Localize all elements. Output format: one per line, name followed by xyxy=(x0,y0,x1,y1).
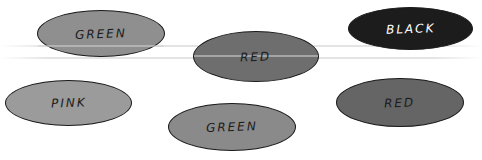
ellipse-label: GREEN xyxy=(75,26,127,42)
ellipse-label: RED xyxy=(240,49,272,64)
ellipse-red-top-center: RED xyxy=(193,31,319,82)
ellipse-green-top-left: GREEN xyxy=(37,10,165,57)
ellipse-red-bottom-right: RED xyxy=(336,78,464,127)
ellipse-label: RED xyxy=(384,95,416,110)
ellipse-label: PINK xyxy=(50,95,86,110)
ellipse-black-top-right: BLACK xyxy=(348,7,473,50)
ellipse-label: BLACK xyxy=(386,21,436,37)
ellipse-green-bottom-center: GREEN xyxy=(168,103,296,151)
ellipse-pink-bottom-left: PINK xyxy=(5,80,132,126)
scan-stripe xyxy=(38,45,164,47)
ellipse-label: GREEN xyxy=(206,119,258,135)
